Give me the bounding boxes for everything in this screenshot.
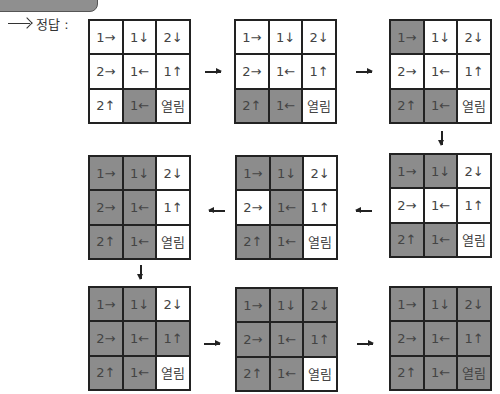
step-grid-9: 1→1↓2↓2→1←1↑2↑1←열림 — [389, 286, 492, 391]
grid-cell: 2↑ — [390, 356, 424, 390]
grid-cell: 1← — [123, 89, 157, 123]
grid-cell: 1↓ — [270, 288, 304, 322]
grid-cell: 2→ — [236, 190, 270, 224]
grid-cell: 1↑ — [302, 54, 336, 88]
grid-cell: 열림 — [156, 356, 190, 390]
arrow-right-icon — [8, 23, 30, 25]
arrow-right-icon — [204, 343, 220, 345]
step-grid-6: 1→1↓2↓2→1←1↑2↑1←열림 — [88, 155, 191, 260]
grid-cell: 1↓ — [123, 287, 157, 321]
grid-cell: 열림 — [302, 89, 336, 123]
grid-cell: 2→ — [89, 54, 123, 88]
grid-cell: 1→ — [89, 156, 123, 190]
grid-cell: 2↑ — [236, 357, 270, 391]
step-grid-4: 1→1↓2↓2→1←1↑2↑1←열림 — [389, 153, 492, 258]
grid-cell: 2↓ — [156, 156, 190, 190]
grid-cell: 1← — [270, 225, 304, 259]
grid-cell: 1← — [123, 190, 157, 224]
grid-cell: 1↓ — [123, 20, 157, 54]
grid-cell: 1← — [424, 321, 458, 355]
grid-cell: 2→ — [89, 321, 123, 355]
grid-cell: 1→ — [236, 288, 270, 322]
step-grid-5: 1→1↓2↓2→1←1↑2↑1←열림 — [235, 155, 338, 260]
grid-cell: 1→ — [236, 156, 270, 190]
grid-cell: 1← — [270, 190, 304, 224]
grid-cell: 2→ — [89, 190, 123, 224]
grid-cell: 1↑ — [457, 54, 491, 88]
grid-cell: 2↑ — [89, 89, 123, 123]
answer-label: 정답 : — [8, 14, 69, 33]
grid-cell: 1← — [269, 54, 303, 88]
grid-cell: 열림 — [303, 225, 337, 259]
grid-cell: 1← — [123, 54, 157, 88]
answer-label-text: 정답 : — [36, 14, 69, 33]
grid-cell: 2↑ — [390, 89, 424, 123]
grid-cell: 2↑ — [89, 356, 123, 390]
grid-cell: 1↑ — [156, 54, 190, 88]
grid-cell: 2↑ — [89, 225, 123, 259]
grid-cell: 2↓ — [303, 156, 337, 190]
grid-cell: 2↓ — [156, 287, 190, 321]
grid-cell: 2→ — [390, 321, 424, 355]
arrow-left-icon — [209, 210, 225, 212]
grid-cell: 2↑ — [236, 225, 270, 259]
step-grid-2: 1→1↓2↓2→1←1↑2↑1←열림 — [234, 19, 337, 124]
grid-cell: 1↓ — [123, 156, 157, 190]
grid-cell: 2↓ — [457, 154, 491, 188]
grid-cell: 1↑ — [303, 322, 337, 356]
grid-cell: 2→ — [235, 54, 269, 88]
step-grid-8: 1→1↓2↓2→1←1↑2↑1←열림 — [235, 287, 338, 392]
grid-cell: 1← — [424, 89, 458, 123]
grid-cell: 1← — [270, 357, 304, 391]
grid-cell: 2↑ — [390, 223, 424, 257]
grid-cell: 1→ — [89, 287, 123, 321]
grid-cell: 2↓ — [302, 20, 336, 54]
grid-cell: 2↓ — [156, 20, 190, 54]
grid-cell: 열림 — [457, 356, 491, 390]
step-grid-7: 1→1↓2↓2→1←1↑2↑1←열림 — [88, 286, 191, 391]
grid-cell: 열림 — [457, 89, 491, 123]
grid-cell: 1↓ — [424, 20, 458, 54]
grid-cell: 열림 — [156, 89, 190, 123]
grid-cell: 1→ — [89, 20, 123, 54]
grid-cell: 1← — [424, 188, 458, 222]
grid-cell: 1↑ — [156, 190, 190, 224]
grid-cell: 1← — [424, 54, 458, 88]
grid-cell: 2→ — [390, 54, 424, 88]
header-tab — [0, 0, 98, 12]
arrow-left-icon — [356, 210, 372, 212]
grid-cell: 2→ — [390, 188, 424, 222]
grid-cell: 1↓ — [424, 154, 458, 188]
arrow-right-icon — [205, 71, 221, 73]
grid-cell: 1↑ — [457, 321, 491, 355]
grid-cell: 2↓ — [457, 20, 491, 54]
grid-cell: 1→ — [390, 287, 424, 321]
grid-cell: 열림 — [457, 223, 491, 257]
grid-cell: 2→ — [236, 322, 270, 356]
arrow-right-icon — [356, 71, 372, 73]
grid-cell: 1→ — [390, 20, 424, 54]
grid-cell: 열림 — [303, 357, 337, 391]
grid-cell: 1← — [424, 223, 458, 257]
grid-cell: 1← — [123, 225, 157, 259]
grid-cell: 1↑ — [156, 321, 190, 355]
grid-cell: 1← — [424, 356, 458, 390]
grid-cell: 1← — [269, 89, 303, 123]
arrow-down-icon — [140, 265, 142, 279]
grid-cell: 2↓ — [303, 288, 337, 322]
grid-cell: 1↓ — [269, 20, 303, 54]
arrow-down-icon — [441, 131, 443, 145]
grid-cell: 2↓ — [457, 287, 491, 321]
arrow-right-icon — [357, 343, 373, 345]
grid-cell: 1↓ — [424, 287, 458, 321]
step-grid-1: 1→1↓2↓2→1←1↑2↑1←열림 — [88, 19, 191, 124]
grid-cell: 1→ — [390, 154, 424, 188]
grid-cell: 1↓ — [270, 156, 304, 190]
step-grid-3: 1→1↓2↓2→1←1↑2↑1←열림 — [389, 19, 492, 124]
grid-cell: 열림 — [156, 225, 190, 259]
grid-cell: 1← — [123, 321, 157, 355]
grid-cell: 1← — [123, 356, 157, 390]
grid-cell: 1↑ — [457, 188, 491, 222]
grid-cell: 2↑ — [235, 89, 269, 123]
grid-cell: 1→ — [235, 20, 269, 54]
